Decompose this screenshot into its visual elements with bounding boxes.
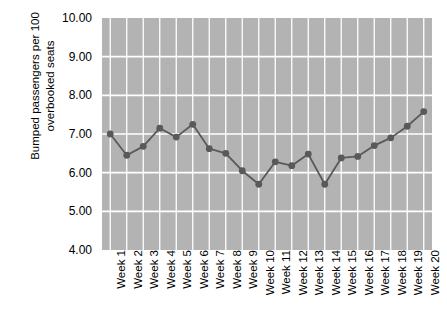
- x-axis-tick-label: Week 3: [148, 250, 161, 312]
- x-axis-tick-label: Week 10: [264, 250, 277, 312]
- x-axis-tick-label: Week 5: [181, 250, 194, 312]
- data-point-marker: [189, 121, 196, 128]
- data-point-marker: [255, 181, 262, 188]
- data-point-marker: [272, 158, 279, 165]
- x-axis-tick-label: Week 13: [313, 250, 326, 312]
- plot-area: [102, 18, 432, 250]
- x-axis-tick-label: Week 1: [115, 250, 128, 312]
- data-point-marker: [354, 153, 361, 160]
- data-point-marker: [222, 150, 229, 157]
- x-axis-tick-label: Week 19: [412, 250, 425, 312]
- x-axis-tick-label: Week 16: [363, 250, 376, 312]
- x-axis-tick-label: Week 7: [214, 250, 227, 312]
- x-axis-tick-label: Week 15: [346, 250, 359, 312]
- y-axis-tick-labels: 10.009.008.007.006.005.004.00: [40, 0, 97, 318]
- y-axis-tick-label: 6.00: [69, 166, 92, 180]
- plot-svg: [102, 18, 432, 250]
- data-point-marker: [288, 162, 295, 169]
- y-axis-tick-label: 10.00: [62, 11, 92, 25]
- data-point-marker: [371, 142, 378, 149]
- y-axis-tick-label: 9.00: [69, 50, 92, 64]
- data-point-marker: [387, 134, 394, 141]
- x-axis-tick-label: Week 11: [280, 250, 293, 312]
- data-point-marker: [123, 152, 130, 159]
- x-axis-tick-label: Week 9: [247, 250, 260, 312]
- data-point-marker: [321, 181, 328, 188]
- data-point-marker: [107, 131, 114, 138]
- x-axis-tick-label: Week 20: [429, 250, 442, 312]
- y-axis-tick-label: 4.00: [69, 243, 92, 257]
- x-axis-tick-label: Week 17: [379, 250, 392, 312]
- x-axis-tick-label: Week 4: [165, 250, 178, 312]
- x-axis-tick-label: Week 8: [231, 250, 244, 312]
- line-chart: Bumped passengers per 100 overbooked sea…: [0, 0, 447, 318]
- data-point-marker: [305, 151, 312, 158]
- data-point-marker: [239, 167, 246, 174]
- x-axis-tick-label: Week 14: [330, 250, 343, 312]
- y-axis-tick-label: 8.00: [69, 88, 92, 102]
- y-axis-tick-label: 5.00: [69, 204, 92, 218]
- data-point-marker: [338, 155, 345, 162]
- x-axis-tick-label: Week 2: [132, 250, 145, 312]
- data-point-marker: [173, 134, 180, 141]
- y-axis-tick-label: 7.00: [69, 127, 92, 141]
- data-point-marker: [156, 125, 163, 132]
- x-axis-tick-label: Week 6: [198, 250, 211, 312]
- x-axis-tick-label: Week 18: [396, 250, 409, 312]
- data-point-marker: [420, 108, 427, 115]
- data-point-marker: [206, 145, 213, 152]
- x-axis-tick-labels: Week 1Week 2Week 3Week 4Week 5Week 6Week…: [102, 250, 432, 318]
- x-axis-tick-label: Week 12: [297, 250, 310, 312]
- data-point-marker: [140, 143, 147, 150]
- data-point-marker: [404, 123, 411, 130]
